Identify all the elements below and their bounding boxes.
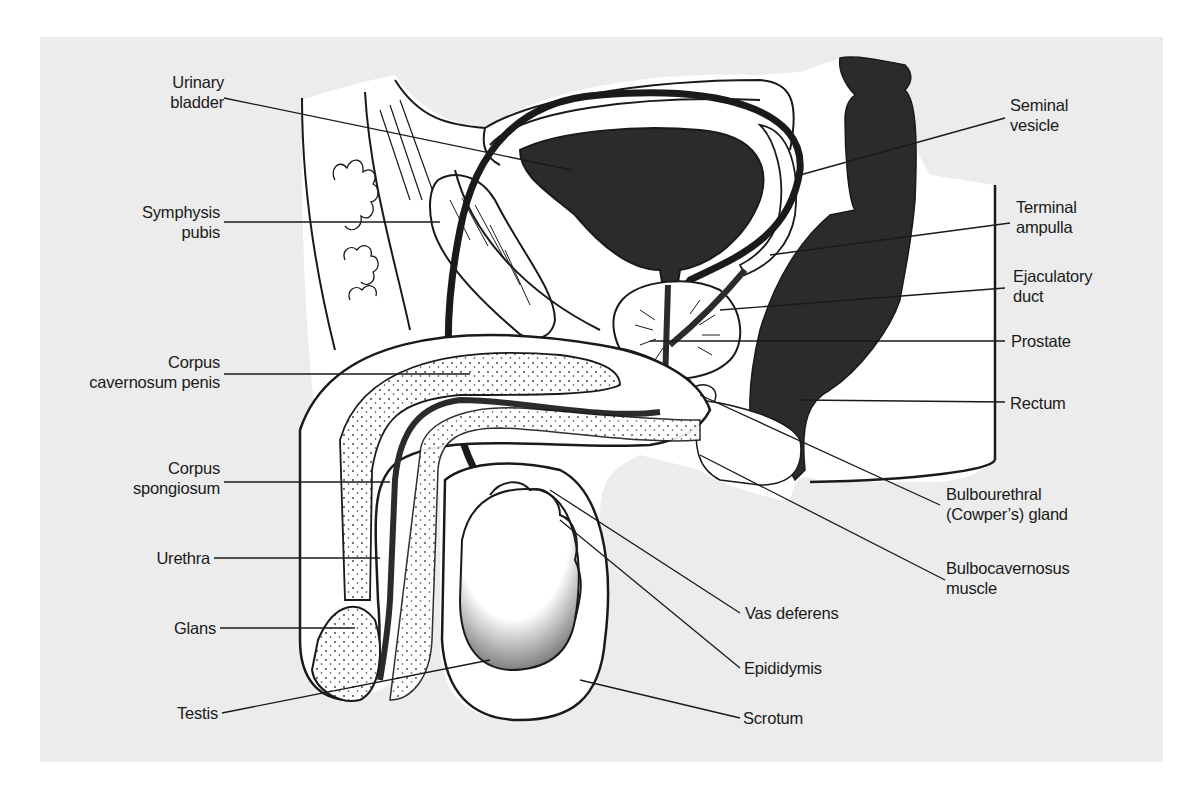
label-line: Corpus <box>60 352 220 372</box>
label-line: Ejaculatory <box>1013 266 1092 286</box>
label-line: ampulla <box>1016 217 1077 237</box>
label-symphysis-pubis: Symphysis pubis <box>100 202 220 242</box>
label-line: Rectum <box>1010 393 1066 413</box>
label-glans: Glans <box>120 618 216 638</box>
label-rectum: Rectum <box>1010 393 1066 413</box>
label-epididymis: Epididymis <box>744 658 822 678</box>
label-line: Testis <box>120 703 218 723</box>
label-prostate: Prostate <box>1011 331 1071 351</box>
label-urinary-bladder: Urinary bladder <box>140 72 224 112</box>
label-testis: Testis <box>120 703 218 723</box>
label-bulbocavernosus-muscle: Bulbocavernosus muscle <box>946 558 1070 598</box>
label-line: Urinary <box>140 72 224 92</box>
label-corpus-cavernosum-penis: Corpus cavernosum penis <box>60 352 220 392</box>
label-ejaculatory-duct: Ejaculatory duct <box>1013 266 1092 306</box>
label-line: Urethra <box>110 548 210 568</box>
label-line: cavernosum penis <box>60 372 220 392</box>
label-seminal-vesicle: Seminal vesicle <box>1010 95 1068 135</box>
label-corpus-spongiosum: Corpus spongiosum <box>80 458 220 498</box>
label-line: Symphysis <box>100 202 220 222</box>
label-line: vesicle <box>1010 115 1068 135</box>
label-line: Prostate <box>1011 331 1071 351</box>
label-line: (Cowper’s) gland <box>946 504 1068 524</box>
label-line: duct <box>1013 286 1092 306</box>
label-terminal-ampulla: Terminal ampulla <box>1016 197 1077 237</box>
label-line: muscle <box>946 578 1070 598</box>
label-line: Scrotum <box>743 708 803 728</box>
label-line: Bulbourethral <box>946 484 1068 504</box>
label-urethra: Urethra <box>110 548 210 568</box>
label-line: bladder <box>140 92 224 112</box>
label-line: Vas deferens <box>745 603 839 623</box>
label-line: Epididymis <box>744 658 822 678</box>
label-line: Corpus <box>80 458 220 478</box>
label-line: Seminal <box>1010 95 1068 115</box>
scrotum-testis <box>442 463 608 720</box>
label-bulbourethral-gland: Bulbourethral (Cowper’s) gland <box>946 484 1068 524</box>
label-vas-deferens: Vas deferens <box>745 603 839 623</box>
label-line: pubis <box>100 222 220 242</box>
label-line: Glans <box>120 618 216 638</box>
label-line: Terminal <box>1016 197 1077 217</box>
label-scrotum: Scrotum <box>743 708 803 728</box>
label-line: Bulbocavernosus <box>946 558 1070 578</box>
label-line: spongiosum <box>80 478 220 498</box>
